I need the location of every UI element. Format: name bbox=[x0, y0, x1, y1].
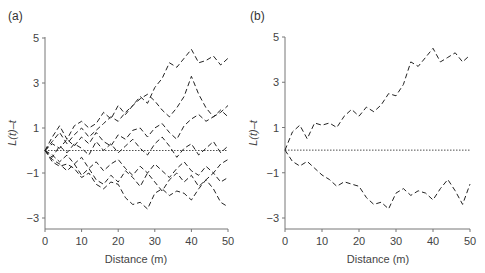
x-tick-label: 40 bbox=[185, 235, 197, 247]
y-axis-label-a: L(t)–t bbox=[6, 119, 18, 146]
y-tick-label: −3 bbox=[26, 212, 39, 224]
x-tick-label: 50 bbox=[464, 235, 476, 247]
panel-b: (b) −3−1135 01020304050 Distance (m) L(t… bbox=[247, 9, 476, 265]
y-tick-label: −3 bbox=[266, 212, 279, 224]
series-group-a bbox=[45, 49, 228, 209]
x-tick-label: 20 bbox=[112, 235, 124, 247]
panel-label-b: (b) bbox=[250, 9, 265, 23]
panel-a: (a) −3−1135 01020304050 Distance (m) L(t… bbox=[6, 9, 234, 265]
series-line-s5 bbox=[45, 151, 228, 178]
x-tick-label: 30 bbox=[149, 235, 161, 247]
y-tick-label: 3 bbox=[273, 76, 279, 88]
x-tick-label: 0 bbox=[42, 235, 48, 247]
series-line-s2 bbox=[45, 76, 228, 150]
y-tick-label: 1 bbox=[273, 122, 279, 134]
x-tick-label: 20 bbox=[353, 235, 365, 247]
y-tick-label: 5 bbox=[273, 31, 279, 43]
x-tick-label: 10 bbox=[316, 235, 328, 247]
x-tick-label: 40 bbox=[427, 235, 439, 247]
x-tick-label: 50 bbox=[222, 235, 234, 247]
series-line-s7 bbox=[45, 151, 228, 210]
x-tick-label: 10 bbox=[75, 235, 87, 247]
series-line-s1 bbox=[45, 49, 228, 150]
series-line-lower bbox=[285, 150, 470, 209]
y-tick-label: −1 bbox=[26, 167, 39, 179]
series-line-s4 bbox=[45, 137, 228, 157]
x-tick-label: 30 bbox=[390, 235, 402, 247]
x-ticks-b: 01020304050 bbox=[282, 229, 476, 247]
y-ticks-b: −3−1135 bbox=[266, 31, 285, 224]
y-tick-label: 1 bbox=[33, 122, 39, 134]
x-tick-label: 0 bbox=[282, 235, 288, 247]
x-ticks-a: 01020304050 bbox=[42, 229, 234, 247]
y-axis-label-b: L(t)–t bbox=[247, 119, 259, 146]
y-tick-label: 5 bbox=[33, 32, 39, 44]
x-axis-label-b: Distance (m) bbox=[347, 253, 409, 265]
y-tick-label: 3 bbox=[33, 77, 39, 89]
series-group-b bbox=[285, 48, 470, 209]
panel-label-a: (a) bbox=[8, 9, 23, 23]
y-ticks-a: −3−1135 bbox=[26, 32, 45, 224]
y-tick-label: −1 bbox=[266, 167, 279, 179]
figure: (a) −3−1135 01020304050 Distance (m) L(t… bbox=[0, 0, 485, 273]
x-axis-label-a: Distance (m) bbox=[105, 253, 167, 265]
series-line-upper bbox=[285, 48, 470, 150]
